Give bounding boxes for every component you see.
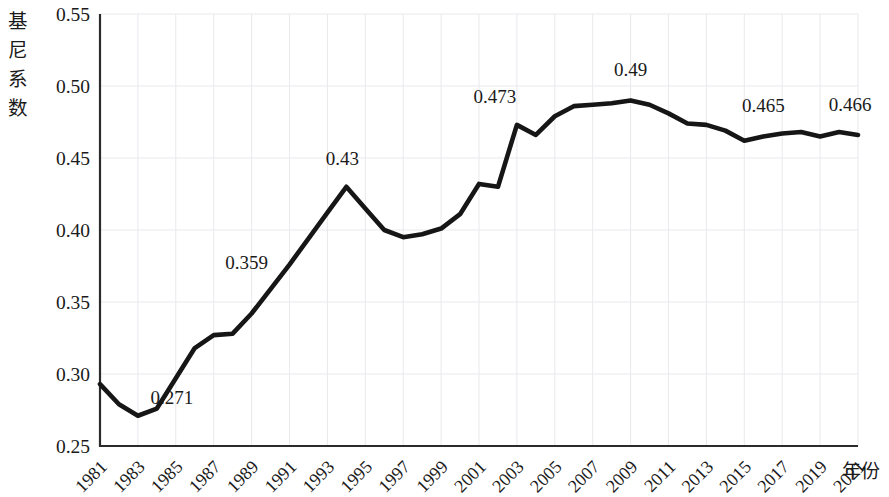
x-axis-tick-label: 2009 (602, 457, 642, 497)
data-point-label: 0.43 (326, 148, 359, 169)
chart-canvas: 基尼系数 0.550.500.450.400.350.300.25 198119… (0, 0, 889, 497)
x-axis-tick-label: 2003 (488, 457, 528, 497)
x-axis-tick-label: 2017 (753, 457, 793, 497)
x-axis-tick-label: 1987 (185, 457, 225, 497)
data-point-label: 0.271 (151, 387, 194, 408)
y-axis-tick-label: 0.55 (56, 4, 90, 25)
gridlines (100, 14, 858, 446)
x-axis-tick-label: 1999 (412, 457, 452, 497)
y-axis-tick-label: 0.40 (56, 220, 90, 241)
data-point-label: 0.359 (225, 252, 268, 273)
data-point-label: 0.465 (742, 95, 785, 116)
y-axis-tick-labels: 0.550.500.450.400.350.300.25 (56, 4, 90, 457)
x-axis-tick-label: 1989 (223, 457, 263, 497)
x-axis-tick-label: 2019 (791, 457, 831, 497)
data-point-label: 0.473 (474, 86, 517, 107)
x-axis-tick-label: 1995 (337, 457, 377, 497)
y-axis-tick-label: 0.50 (56, 76, 90, 97)
x-axis-tick-label: 1983 (109, 457, 149, 497)
x-axis-tick-label: 2007 (564, 457, 604, 497)
y-axis-title: 基尼系数 (8, 11, 28, 119)
x-axis-tick-label: 2011 (640, 457, 679, 496)
gini-coefficient-line-chart: 基尼系数 0.550.500.450.400.350.300.25 198119… (0, 0, 889, 497)
data-point-label: 0.466 (829, 94, 872, 115)
y-axis-title-char: 系 (8, 69, 28, 90)
y-axis-title-char: 尼 (8, 40, 28, 61)
y-axis-tick-label: 0.45 (56, 148, 90, 169)
x-axis-tick-label: 1981 (71, 457, 111, 497)
y-axis-title-char: 数 (8, 98, 28, 119)
data-point-labels: 0.2710.3590.430.4730.490.4650.466 (151, 59, 872, 407)
x-axis-tick-labels: 1981198319851987198919911993199519971999… (71, 457, 869, 497)
x-axis-tick-label: 2013 (678, 457, 718, 497)
y-axis-title-char: 基 (8, 11, 28, 32)
x-axis-title-label: 年份 (842, 461, 880, 482)
x-axis-tick-label: 1997 (374, 457, 414, 497)
x-axis-tick-label: 2015 (716, 457, 756, 497)
data-point-label: 0.49 (614, 59, 647, 80)
x-axis-title: 年份 (842, 461, 880, 482)
x-axis-tick-label: 1991 (261, 457, 301, 497)
x-axis-tick-label: 1985 (147, 457, 187, 497)
y-axis-tick-label: 0.35 (56, 292, 90, 313)
x-axis-tick-label: 2001 (450, 457, 490, 497)
x-axis-tick-label: 1993 (299, 457, 339, 497)
x-axis-tick-label: 2005 (526, 457, 566, 497)
y-axis-tick-label: 0.30 (56, 364, 90, 385)
y-axis-tick-label: 0.25 (56, 436, 90, 457)
